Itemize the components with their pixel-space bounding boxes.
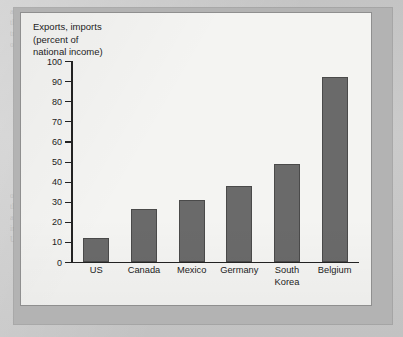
x-axis-category-label: Germany [216, 265, 264, 277]
x-axis-category-label: Canada [120, 265, 168, 277]
x-axis-category-label: US [73, 265, 121, 277]
y-axis-tick-label: 50 [52, 157, 62, 167]
bars-layer [73, 61, 359, 262]
y-axis-tick: 90 [65, 81, 71, 82]
y-axis-tick-label: 40 [52, 177, 62, 187]
y-axis-tick-label: 90 [52, 77, 62, 87]
bar [322, 77, 348, 262]
y-axis-tick-label: 20 [52, 217, 62, 227]
x-axis-category-label: Belgium [311, 265, 359, 277]
bar [226, 186, 252, 262]
y-axis-tick-label: 30 [52, 197, 62, 207]
y-axis-tick-label: 80 [52, 97, 62, 107]
y-axis-tick: 20 [65, 222, 71, 223]
y-axis-tick: 0 [65, 262, 71, 263]
y-axis-tick: 100 [65, 61, 71, 62]
x-axis-category-label: Mexico [168, 265, 216, 277]
y-axis-tick-label: 70 [52, 117, 62, 127]
y-axis-tick: 10 [65, 242, 71, 243]
x-axis-category-label: South Korea [263, 265, 311, 288]
y-axis-tick: 60 [65, 141, 71, 142]
scanned-page-background: a dominant trend b. sublished in a super… [0, 0, 403, 337]
y-axis-tick: 50 [65, 162, 71, 163]
y-axis-tick: 40 [65, 182, 71, 183]
bar [274, 164, 300, 262]
y-axis-tick: 70 [65, 121, 71, 122]
chart-axis-title: Exports, imports (percent of national in… [33, 21, 103, 59]
chart-panel: Exports, imports (percent of national in… [20, 12, 372, 306]
y-axis-tick-label: 10 [52, 237, 62, 247]
bar [83, 238, 109, 262]
y-axis-tick-label: 0 [57, 258, 62, 268]
bar [131, 209, 157, 262]
plot-area: 0102030405060708090100 USCanadaMexicoGer… [33, 61, 361, 297]
y-axis-tick-label: 60 [52, 137, 62, 147]
y-axis-tick: 30 [65, 202, 71, 203]
y-axis-tick: 80 [65, 101, 71, 102]
bar [179, 200, 205, 262]
x-axis-labels: USCanadaMexicoGermanySouth KoreaBelgium [73, 265, 359, 297]
